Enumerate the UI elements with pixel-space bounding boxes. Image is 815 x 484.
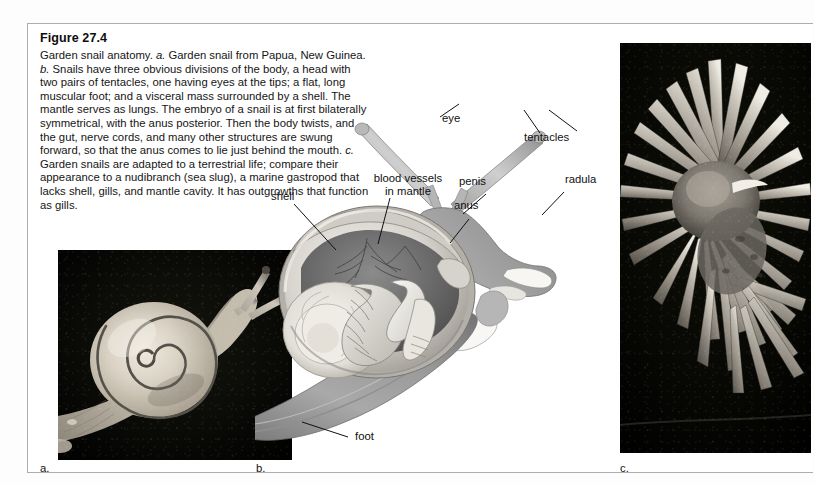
- leader-radula: [542, 192, 564, 215]
- leader-shell: [294, 204, 336, 250]
- panel-letter-c: c.: [620, 462, 629, 474]
- label-anus: anus: [454, 199, 479, 212]
- figure-page: Figure 27.4 Garden snail anatomy. a. Gar…: [0, 0, 815, 484]
- label-penis: penis: [459, 175, 486, 188]
- label-blood-vessels-line1: blood vessels: [374, 172, 442, 184]
- label-eye: eye: [442, 112, 460, 125]
- label-foot: foot: [355, 430, 374, 443]
- nudibranch-photo-content: [620, 43, 811, 453]
- label-radula: radula: [565, 173, 596, 186]
- label-blood-vessels: blood vessels in mantle: [358, 172, 458, 198]
- label-shell: shell: [271, 190, 294, 203]
- label-tentacles: tentacles: [524, 131, 569, 144]
- nudibranch-photo: [620, 43, 811, 453]
- leader-blood-vessels: [378, 198, 390, 244]
- label-blood-vessels-line2: in mantle: [385, 185, 431, 197]
- leader-foot: [302, 422, 348, 437]
- leader-anus: [450, 219, 469, 243]
- leader-tentacle-left: [524, 110, 540, 133]
- leader-tentacle-right: [549, 110, 577, 131]
